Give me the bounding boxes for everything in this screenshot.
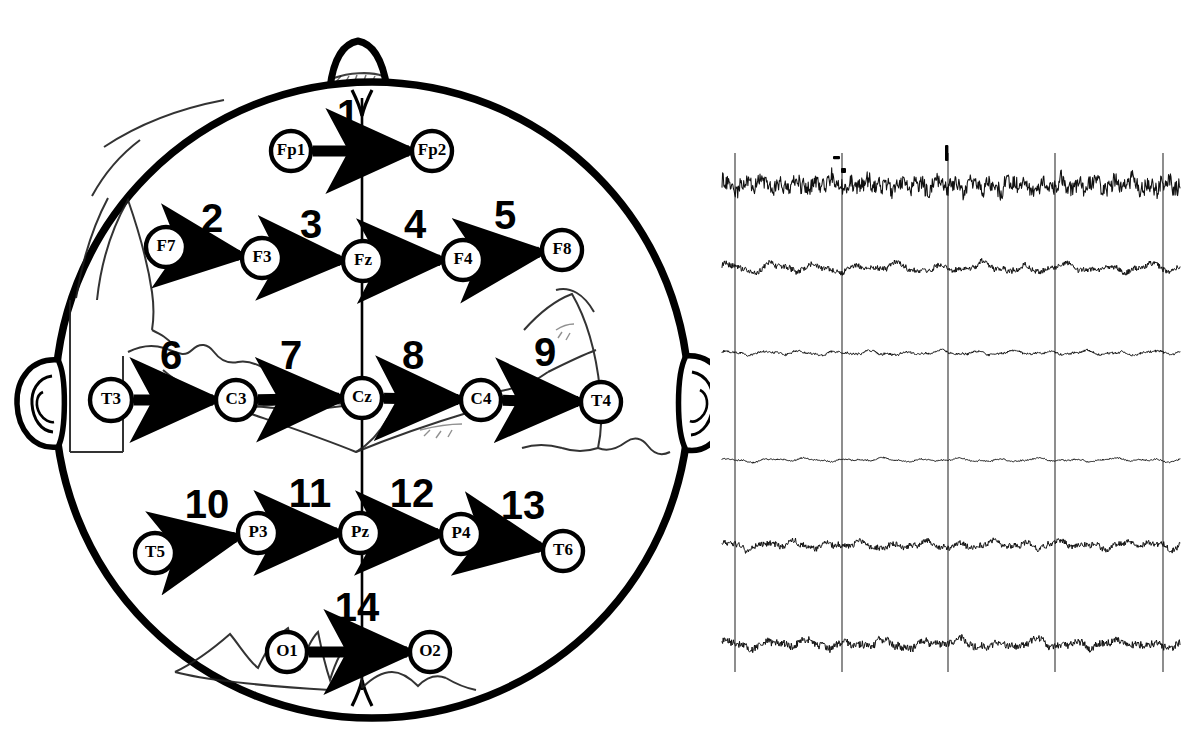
electrode-label: Fp1 (277, 140, 305, 159)
electrode-F7[interactable]: F7 (146, 227, 186, 267)
derivation-number-12: 12 (390, 471, 435, 515)
eeg-ink-artifact-2 (945, 145, 948, 161)
derivation-number-13: 13 (501, 483, 546, 527)
electrode-label: F4 (454, 249, 473, 268)
derivation-arrow-5 (485, 252, 539, 257)
electrode-label: O2 (419, 641, 441, 660)
electrode-C3[interactable]: C3 (216, 380, 256, 420)
eeg-traces (722, 168, 1180, 653)
electrode-label: T5 (145, 542, 165, 561)
electrode-Pz[interactable]: Pz (340, 513, 380, 553)
electrode-label: P4 (452, 523, 471, 542)
derivation-number-11: 11 (289, 471, 331, 515)
derivation-number-6: 6 (160, 333, 182, 377)
derivation-number-3: 3 (300, 202, 322, 246)
derivation-number-5: 5 (494, 193, 516, 237)
derivation-number-7: 7 (280, 333, 302, 377)
electrode-T5[interactable]: T5 (135, 533, 175, 573)
electrode-O1[interactable]: O1 (267, 632, 307, 672)
derivation-number-1: 1 (337, 92, 359, 136)
left-ear-icon (17, 360, 64, 447)
derivation-arrow-4 (385, 260, 440, 261)
electrode-F4[interactable]: F4 (443, 240, 483, 280)
derivation-number-2: 2 (201, 196, 223, 240)
electrode-Fp1[interactable]: Fp1 (271, 131, 311, 171)
electrode-label: C4 (471, 389, 492, 408)
electrode-F8[interactable]: F8 (542, 230, 582, 270)
electrode-F3[interactable]: F3 (242, 238, 282, 278)
derivation-arrow-7 (258, 398, 339, 399)
head-map-panel: Fp1Fp2F7F3FzF4F8T3C3CzC4T4T5P3PzP4T6O1O2… (0, 0, 710, 742)
electrode-label: T6 (553, 540, 573, 559)
derivation-arrow-9 (503, 400, 578, 401)
derivation-number-14: 14 (335, 585, 380, 629)
electrode-label: O1 (276, 641, 298, 660)
eeg-trace-channel-6 (722, 634, 1180, 652)
electrode-label: F8 (553, 239, 572, 258)
eeg-gridlines (735, 153, 1163, 672)
electrode-O2[interactable]: O2 (410, 632, 450, 672)
eeg-trace-channel-5 (722, 538, 1180, 554)
electrode-T6[interactable]: T6 (543, 531, 583, 571)
eeg-trace-channel-3 (722, 349, 1180, 357)
eeg-ink-artifact-3 (841, 168, 846, 173)
electrode-label: P3 (249, 522, 268, 541)
derivation-number-8: 8 (402, 333, 424, 377)
electrode-Fz[interactable]: Fz (343, 241, 383, 281)
electrode-Fp2[interactable]: Fp2 (412, 131, 452, 171)
electrode-label: Fz (354, 250, 372, 269)
eeg-artifacts (833, 145, 948, 173)
electrode-label: T3 (101, 389, 121, 408)
eeg-trace-svg (700, 0, 1200, 742)
electrode-P4[interactable]: P4 (441, 514, 481, 554)
derivation-arrow-2 (188, 250, 239, 256)
electrode-label: Cz (352, 387, 372, 406)
derivation-arrow-8 (384, 398, 458, 399)
derivation-arrow-12 (382, 533, 438, 534)
electrode-T3[interactable]: T3 (90, 379, 132, 421)
eeg-trace-channel-2 (722, 258, 1180, 275)
electrode-label: C3 (226, 389, 247, 408)
electrode-C4[interactable]: C4 (461, 380, 501, 420)
electrode-Cz[interactable]: Cz (342, 378, 382, 418)
eeg-trace-channel-4 (722, 457, 1180, 463)
figure-root: Fp1Fp2F7F3FzF4F8T3C3CzC4T4T5P3PzP4T6O1O2… (0, 0, 1200, 742)
electrode-label: Fp2 (418, 140, 446, 159)
head-map-svg: Fp1Fp2F7F3FzF4F8T3C3CzC4T4T5P3PzP4T6O1O2… (0, 0, 710, 742)
eeg-trace-panel (700, 0, 1200, 742)
derivation-number-4: 4 (404, 202, 427, 246)
electrode-P3[interactable]: P3 (238, 513, 278, 553)
derivation-arrow-3 (284, 259, 340, 261)
electrode-label: F3 (253, 247, 272, 266)
eeg-trace-channel-1 (722, 168, 1180, 201)
electrode-label: F7 (157, 236, 176, 255)
electrode-T4[interactable]: T4 (581, 382, 621, 422)
derivation-number-10: 10 (185, 482, 230, 526)
derivation-number-9: 9 (534, 330, 556, 374)
electrode-label: T4 (591, 391, 611, 410)
electrode-label: Pz (351, 522, 369, 541)
eeg-ink-artifact-1 (833, 156, 840, 159)
